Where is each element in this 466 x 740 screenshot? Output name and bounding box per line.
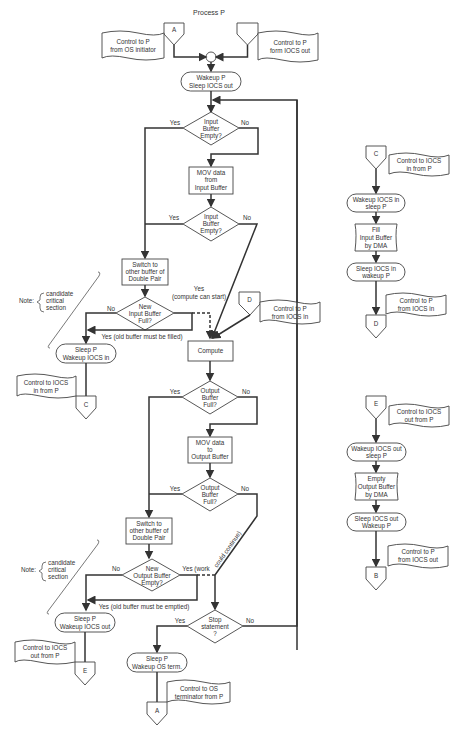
label-no: No [241, 485, 250, 492]
label-yes: Yes [170, 388, 180, 395]
label-could-continue: could continue) [212, 530, 243, 570]
process-compute: Compute [188, 341, 233, 361]
connector-b-top [237, 23, 258, 45]
svg-text:Output Buffer: Output Buffer [191, 453, 228, 461]
svg-text:Note:: Note: [19, 297, 34, 304]
svg-text:E: E [83, 667, 87, 674]
decision-stop-statement: Stop statement ? [187, 610, 243, 643]
label-no: No [246, 617, 255, 624]
svg-text:Control to P: Control to P [273, 305, 306, 312]
svg-text:Buffer: Buffer [202, 491, 219, 498]
terminal-sleep-p-wakeup-iocs-out: Sleep P Wakeup IOCS out [55, 613, 115, 632]
iocs-out-connector-b: B [366, 567, 386, 590]
label-yes: Yes [169, 214, 179, 221]
label-yes: Yes [170, 119, 180, 126]
svg-text:other buffer of: other buffer of [125, 268, 164, 275]
annotation-control-from-os-initiator: Control to P from OS initiator [102, 31, 164, 60]
process-mov-data-to-output: MOV data to Output Buffer [188, 437, 232, 463]
decision-new-output-buffer-empty: New Output Buffer Empty? [122, 559, 180, 591]
connector-a-end: A [147, 702, 167, 725]
annotation-control-to-iocs-out: Control to IOCS out from P [15, 640, 75, 664]
svg-text:D: D [374, 320, 379, 327]
svg-text:Wakeup P: Wakeup P [197, 74, 226, 82]
svg-text:from OS initiator: from OS initiator [110, 46, 156, 53]
annotation-control-from-iocs-out: Control to P form IOCS out [258, 31, 318, 62]
annotation-control-to-os-terminator: Control to OS terminator from P [167, 680, 230, 704]
svg-text:Wakeup IOCS in: Wakeup IOCS in [63, 354, 110, 362]
svg-text:to: to [207, 446, 213, 453]
svg-text:Empty: Empty [368, 475, 387, 483]
svg-text:Control to IOCS: Control to IOCS [397, 408, 441, 415]
iocs-in-annotation-bottom: Control to P from IOCS in [386, 293, 446, 316]
svg-text:Empty?: Empty? [200, 227, 222, 235]
label-compute-can-start: (compute can start) [172, 293, 226, 301]
svg-text:Empty?: Empty? [200, 132, 222, 140]
svg-text:wakeup P: wakeup P [361, 272, 390, 280]
iocs-out-empty-output-buffer: Empty Output Buffer by DMA [355, 473, 398, 500]
svg-text:sleep P: sleep P [366, 452, 387, 460]
svg-text:D: D [247, 296, 252, 303]
svg-text:by DMA: by DMA [365, 491, 388, 499]
note-candidate-critical-section-1: Note: candidate critical section [19, 272, 100, 348]
label-no: No [107, 305, 116, 312]
decision-output-buffer-full-2: Output Buffer Full? [182, 478, 238, 511]
label-yes-work: Yes (work [182, 565, 210, 573]
svg-text:form IOCS out: form IOCS out [270, 47, 310, 54]
annotation-control-to-iocs-in: Control to IOCS in from P [17, 374, 76, 398]
svg-text:section: section [46, 304, 66, 311]
svg-text:C: C [374, 150, 379, 157]
svg-text:Switch to: Switch to [132, 261, 158, 268]
svg-text:from IOCS out: from IOCS out [398, 556, 438, 563]
iocs-out-annotation-top: Control to IOCS out from P [389, 404, 449, 427]
svg-text:Switch to: Switch to [136, 520, 162, 527]
label-yes: Yes [175, 617, 185, 624]
process-switch-input-buffer: Switch to other buffer of Double Pair [122, 259, 168, 285]
terminal-sleep-p-wakeup-os-term: Sleep P Wakeup OS term. [127, 653, 187, 672]
svg-text:Sleep P: Sleep P [75, 346, 97, 354]
terminal-sleep-p-wakeup-iocs-in: Sleep P Wakeup IOCS in [56, 344, 116, 363]
svg-text:Buffer: Buffer [203, 220, 220, 227]
label-old-buffer-emptied: Yes (old buffer must be emptied) [99, 603, 190, 611]
label-no: No [243, 214, 252, 221]
iocs-in-terminal-wakeup: Wakeup IOCS in sleep P [347, 194, 405, 212]
svg-text:from: from [205, 176, 218, 183]
decision-new-input-buffer-full: New Input Buffer Full? [116, 297, 174, 330]
process-switch-output-buffer: Switch to other buffer of Double Pair [126, 518, 172, 544]
svg-text:Control to OS: Control to OS [180, 685, 218, 692]
svg-text:Wakeup IOCS out: Wakeup IOCS out [60, 623, 111, 631]
svg-text:Empty?: Empty? [141, 579, 163, 587]
svg-text:Control to P: Control to P [399, 297, 432, 304]
iocs-in-annotation-top: Control to IOCS in from P [389, 153, 449, 176]
svg-text:MOV data: MOV data [197, 169, 226, 176]
decision-output-buffer-full-1: Output Buffer Full? [182, 381, 238, 414]
note-candidate-critical-section-2: Note: candidate critical section [21, 540, 99, 614]
svg-text:Note:: Note: [21, 566, 36, 573]
svg-text:Output Buffer: Output Buffer [358, 483, 395, 491]
svg-text:Wakeup OS term.: Wakeup OS term. [132, 663, 182, 671]
svg-text:Buffer: Buffer [203, 125, 220, 132]
svg-text:New: New [139, 303, 152, 310]
svg-text:Sleep P: Sleep P [146, 655, 168, 663]
svg-text:Control to IOCS: Control to IOCS [24, 379, 68, 386]
process-mov-data-from-input: MOV data from Input Buffer [189, 167, 233, 194]
svg-text:section: section [48, 573, 68, 580]
svg-text:by DMA: by DMA [365, 242, 388, 250]
flowchart-canvas: Process P A Control to P from OS initiat… [0, 0, 466, 740]
connector-c: C [76, 396, 96, 419]
connector-a-top: A [164, 23, 184, 45]
svg-text:critical: critical [46, 297, 64, 304]
connector-e: E [75, 662, 95, 685]
svg-text:Full?: Full? [203, 498, 217, 505]
svg-text:candidate: candidate [48, 559, 76, 566]
label-no: No [242, 388, 251, 395]
svg-text:Control to P: Control to P [401, 548, 434, 555]
svg-text:B: B [374, 572, 378, 579]
iocs-out-terminal-sleep: Sleep IOCS out Wakeup P [347, 513, 406, 531]
label-no: No [241, 119, 250, 126]
svg-text:out from P: out from P [30, 652, 59, 659]
label-no: No [112, 565, 121, 572]
svg-text:Control to P: Control to P [273, 39, 306, 46]
svg-text:Buffer: Buffer [202, 394, 219, 401]
svg-text:Control to IOCS: Control to IOCS [397, 157, 441, 164]
svg-text:out from P: out from P [404, 416, 433, 423]
